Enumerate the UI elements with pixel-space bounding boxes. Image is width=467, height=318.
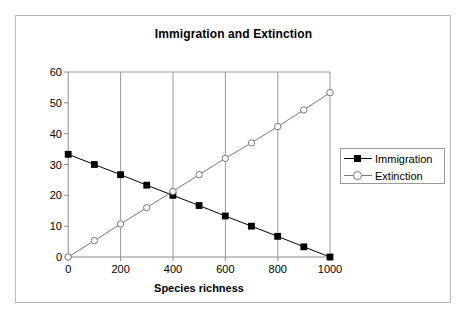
data-point-marker xyxy=(300,243,307,250)
series-immigration xyxy=(65,151,334,260)
ytick-label-30: 30 xyxy=(40,159,62,171)
ytick-label-0: 0 xyxy=(40,251,62,263)
chart-container: Immigration and Extinction xyxy=(0,0,467,318)
data-point-marker xyxy=(170,188,176,194)
data-point-marker xyxy=(65,151,72,158)
data-point-marker xyxy=(65,254,71,260)
legend-entry-immigration: Immigration xyxy=(341,150,446,167)
data-point-marker xyxy=(91,161,98,168)
ytick-label-10: 10 xyxy=(40,220,62,232)
gridlines xyxy=(68,72,330,257)
ytick-label-50: 50 xyxy=(40,97,62,109)
data-point-marker xyxy=(143,182,150,189)
data-point-marker xyxy=(301,107,307,113)
data-point-marker xyxy=(248,140,254,146)
x-axis-ticks xyxy=(68,257,330,261)
ytick-label-20: 20 xyxy=(40,189,62,201)
data-point-marker xyxy=(327,89,333,95)
xtick-label-1000: 1000 xyxy=(318,263,342,275)
legend-label-immigration: Immigration xyxy=(375,153,432,165)
legend-entry-extinction: Extinction xyxy=(341,167,446,184)
legend-marker-open-circle-icon xyxy=(341,168,375,184)
data-point-marker xyxy=(117,221,123,227)
ytick-label-40: 40 xyxy=(40,128,62,140)
xtick-label-400: 400 xyxy=(164,263,182,275)
data-point-marker xyxy=(248,223,255,230)
data-point-marker xyxy=(222,213,229,220)
data-point-marker xyxy=(196,202,203,209)
data-point-marker xyxy=(144,204,150,210)
data-point-marker xyxy=(91,237,97,243)
y-axis-ticks xyxy=(64,72,68,257)
series-extinction xyxy=(65,89,333,260)
xtick-label-800: 800 xyxy=(269,263,287,275)
x-axis-title: Species richness xyxy=(68,282,330,294)
data-point-marker xyxy=(196,171,202,177)
xtick-label-200: 200 xyxy=(111,263,129,275)
data-point-marker xyxy=(222,155,228,161)
xtick-label-0: 0 xyxy=(65,263,71,275)
data-point-marker xyxy=(274,123,280,129)
legend-label-extinction: Extinction xyxy=(375,170,423,182)
data-point-marker xyxy=(274,233,281,240)
data-point-marker xyxy=(117,171,124,178)
ytick-label-60: 60 xyxy=(40,66,62,78)
data-point-marker xyxy=(327,254,334,261)
chart-legend: Immigration Extinction xyxy=(340,148,445,184)
xtick-label-600: 600 xyxy=(216,263,234,275)
legend-marker-filled-square-icon xyxy=(341,151,375,167)
data-series-layer xyxy=(65,89,334,260)
